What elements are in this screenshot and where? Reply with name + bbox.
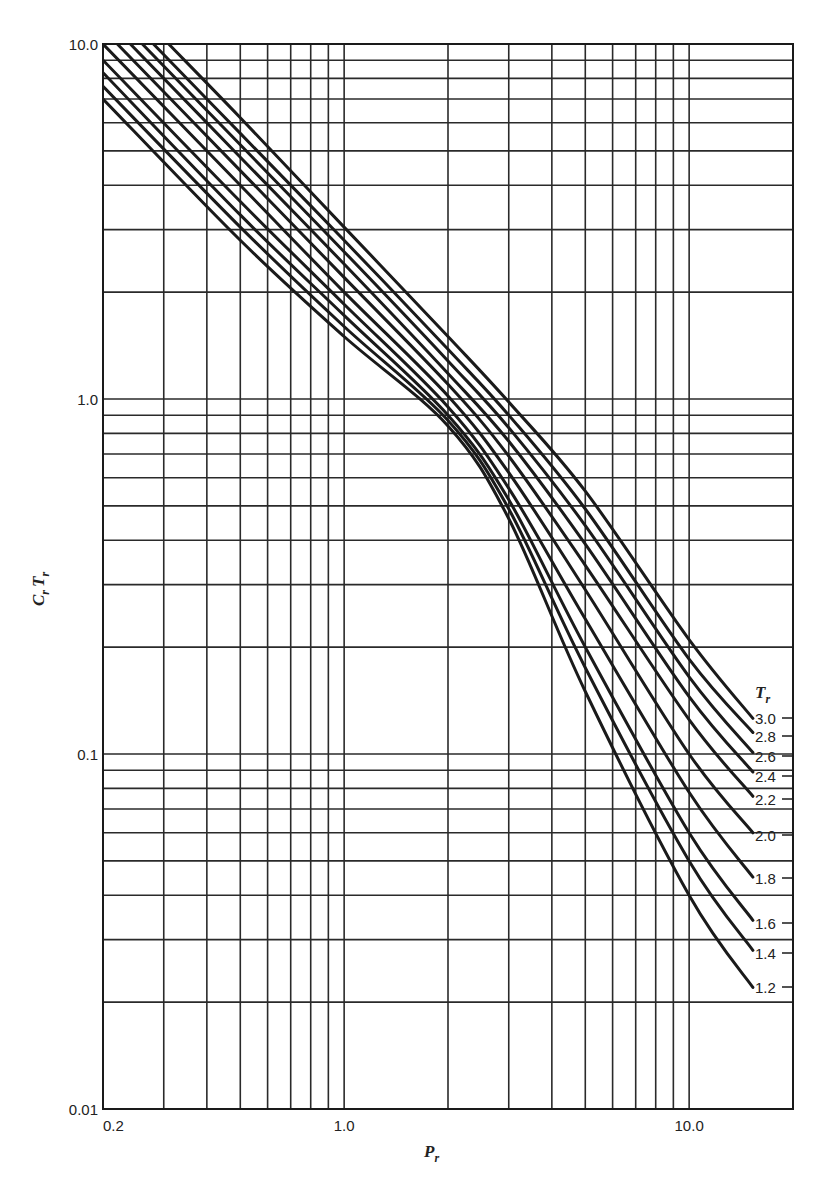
curve-label: 1.8 xyxy=(755,870,776,887)
curve-tr-3-0 xyxy=(169,44,753,718)
y-tick-label: 1.0 xyxy=(77,391,98,408)
curve-label: 1.4 xyxy=(755,945,776,962)
curve-label: 3.0 xyxy=(755,710,776,727)
y-tick-label: 10.0 xyxy=(69,36,98,53)
chart: 0.21.010.0 10.01.00.10.01 3.02.82.62.42.… xyxy=(0,0,824,1190)
y-tick-label: 0.1 xyxy=(77,746,98,763)
y-tick-labels: 10.01.00.10.01 xyxy=(69,36,98,1118)
curve-label: 2.0 xyxy=(755,827,776,844)
curve-label: 1.6 xyxy=(755,915,776,932)
curve-labels: 3.02.82.62.42.22.01.81.61.41.2 xyxy=(755,710,793,996)
y-tick-label: 0.01 xyxy=(69,1101,98,1118)
x-tick-label: 10.0 xyxy=(675,1117,704,1134)
curve-label: 2.8 xyxy=(755,728,776,745)
x-axis-title: Pr xyxy=(423,1142,439,1165)
curve-label: 2.4 xyxy=(755,768,776,785)
curve-label: 1.2 xyxy=(755,979,776,996)
gridlines xyxy=(103,44,793,1109)
legend-title: Tr xyxy=(755,683,770,706)
y-axis-title: CrTr xyxy=(29,572,52,606)
curve-label: 2.2 xyxy=(755,791,776,808)
x-tick-labels: 0.21.010.0 xyxy=(103,1117,704,1134)
curve-label: 2.6 xyxy=(755,748,776,765)
x-tick-label: 0.2 xyxy=(103,1117,124,1134)
x-tick-label: 1.0 xyxy=(334,1117,355,1134)
